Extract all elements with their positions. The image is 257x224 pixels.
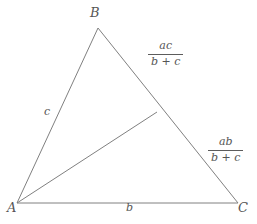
segment-lower-fraction: ab b + c (208, 136, 243, 165)
geometry-figure: A B C c b ac b + c ab b + c (0, 0, 257, 224)
side-label-b: b (126, 202, 133, 213)
vertex-label-a: A (7, 201, 16, 214)
vertex-label-b: B (90, 6, 100, 19)
segment-upper-fraction: ac b + c (148, 40, 183, 69)
segment-upper-denominator: b + c (148, 56, 183, 69)
vertex-label-c: C (238, 201, 248, 214)
segment-upper-numerator: ac (148, 40, 183, 53)
segment-lower-denominator: b + c (208, 152, 243, 165)
side-label-c: c (44, 106, 50, 117)
triangle-drawing (0, 0, 257, 224)
segment-lower-numerator: ab (208, 136, 243, 149)
